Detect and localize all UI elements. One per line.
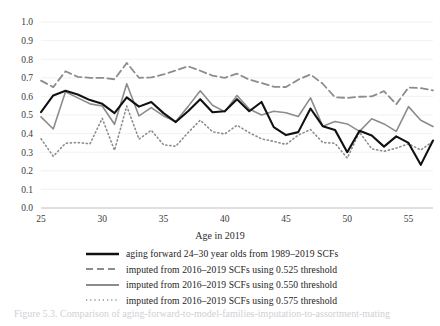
y-tick-label: 0.7 bbox=[21, 73, 33, 83]
figure-caption-text: Figure 5.3. Comparison of aging-forward-… bbox=[14, 308, 390, 319]
legend-line-sample-solid-gray bbox=[86, 279, 119, 291]
legend-label-threshold-0525: imputed from 2016–2019 SCFs using 0.525 … bbox=[126, 264, 337, 275]
chart-legend: aging forward 24–30 year olds from 1989–… bbox=[0, 246, 440, 308]
x-tick-label: 25 bbox=[36, 214, 46, 224]
figure-container: 0.00.10.20.30.40.50.60.70.80.91.0 253035… bbox=[0, 0, 440, 326]
chart-plot-area: 0.00.10.20.30.40.50.60.70.80.91.0 253035… bbox=[0, 0, 440, 246]
legend-item-3: imputed from 2016–2019 SCFs using 0.575 … bbox=[86, 293, 337, 309]
y-axis-tick-labels: 0.00.10.20.30.40.50.60.70.80.91.0 bbox=[21, 17, 33, 213]
figure-caption-strip: Figure 5.3. Comparison of aging-forward-… bbox=[0, 308, 440, 326]
x-tick-label: 55 bbox=[404, 214, 414, 224]
x-tick-label: 35 bbox=[159, 214, 169, 224]
legend-label-aging-forward: aging forward 24–30 year olds from 1989–… bbox=[126, 248, 338, 259]
series-line-0 bbox=[41, 91, 433, 165]
y-tick-label: 1.0 bbox=[21, 17, 33, 27]
x-tick-label: 40 bbox=[220, 214, 230, 224]
legend-label-threshold-0550: imputed from 2016–2019 SCFs using 0.550 … bbox=[126, 279, 337, 290]
y-tick-label: 0.6 bbox=[21, 92, 33, 102]
x-axis-title: Age in 2019 bbox=[195, 230, 244, 241]
y-tick-label: 0.9 bbox=[21, 36, 33, 46]
x-tick-label: 30 bbox=[98, 214, 108, 224]
legend-item-2: imputed from 2016–2019 SCFs using 0.550 … bbox=[86, 277, 337, 293]
series-line-1 bbox=[41, 63, 433, 104]
legend-line-sample-dashed-gray bbox=[86, 263, 119, 275]
y-tick-label: 0.3 bbox=[21, 148, 33, 158]
y-tick-label: 0.0 bbox=[21, 203, 33, 213]
data-series-group bbox=[41, 63, 433, 165]
legend-item-0: aging forward 24–30 year olds from 1989–… bbox=[86, 246, 338, 262]
legend-label-threshold-0575: imputed from 2016–2019 SCFs using 0.575 … bbox=[126, 295, 337, 306]
x-axis-tick-labels: 25303540455055 bbox=[36, 214, 413, 224]
x-tick-label: 45 bbox=[281, 214, 291, 224]
y-tick-label: 0.1 bbox=[21, 185, 33, 195]
y-tick-label: 0.2 bbox=[21, 166, 33, 176]
legend-item-1: imputed from 2016–2019 SCFs using 0.525 … bbox=[86, 262, 337, 278]
x-tick-label: 50 bbox=[343, 214, 353, 224]
series-line-3 bbox=[41, 106, 433, 158]
y-tick-label: 0.8 bbox=[21, 55, 33, 65]
y-tick-label: 0.5 bbox=[21, 110, 33, 120]
line-chart-svg: 0.00.10.20.30.40.50.60.70.80.91.0 253035… bbox=[0, 0, 440, 246]
legend-line-sample-dotted-gray bbox=[86, 294, 119, 306]
y-tick-label: 0.4 bbox=[21, 129, 33, 139]
y-gridlines bbox=[41, 22, 433, 208]
legend-line-sample-solid-black bbox=[86, 248, 119, 260]
